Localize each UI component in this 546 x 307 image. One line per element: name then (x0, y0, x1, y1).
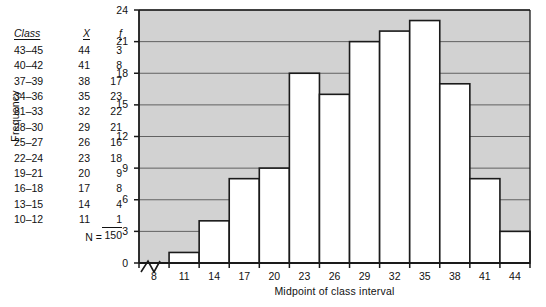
histogram-bar (380, 31, 410, 263)
histogram-bar (319, 94, 349, 263)
histogram-bar (410, 21, 440, 263)
histogram-bar (259, 168, 289, 263)
plot-area (0, 0, 546, 307)
histogram-bar (440, 84, 470, 263)
histogram-chart: Frequency Midpoint of class interval 036… (0, 0, 546, 307)
histogram-bar (199, 221, 229, 263)
histogram-bar (289, 73, 319, 263)
histogram-bar (470, 179, 500, 263)
histogram-bar (229, 179, 259, 263)
histogram-bar (350, 42, 380, 263)
histogram-bar (500, 231, 530, 263)
histogram-bar (169, 252, 199, 263)
